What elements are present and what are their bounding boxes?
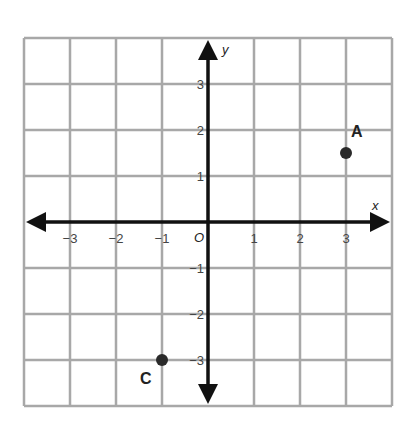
y-tick-label: 1 (197, 169, 204, 184)
x-tick-label: 3 (342, 231, 349, 246)
y-axis-up-arrow-icon (198, 40, 218, 60)
point-a (340, 147, 352, 159)
y-axis-label: y (221, 42, 230, 57)
y-tick-label: 2 (197, 123, 204, 138)
y-axis-down-arrow-icon (198, 384, 218, 404)
coordinate-plane: xy O−3−2−1123321−1−2−3 AC (0, 0, 414, 434)
data-points: AC (140, 123, 363, 387)
point-c (156, 354, 168, 366)
x-tick-label: 2 (296, 231, 303, 246)
x-axis-left-arrow-icon (26, 212, 46, 232)
x-axis-right-arrow-icon (370, 212, 390, 232)
axes: xy (26, 40, 390, 404)
x-tick-label: −2 (109, 231, 124, 246)
x-tick-label: −3 (63, 231, 78, 246)
x-axis-label: x (371, 198, 379, 213)
point-label-c: C (140, 370, 152, 387)
y-tick-label: −1 (189, 261, 204, 276)
x-tick-label: −1 (155, 231, 170, 246)
point-label-a: A (351, 123, 363, 140)
y-tick-label: 3 (197, 77, 204, 92)
x-tick-label: 1 (250, 231, 257, 246)
origin-label: O (194, 230, 204, 245)
y-tick-label: −2 (189, 307, 204, 322)
y-tick-label: −3 (189, 353, 204, 368)
